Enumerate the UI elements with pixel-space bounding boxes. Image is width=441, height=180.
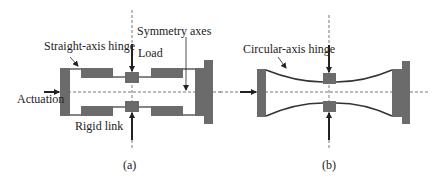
center-pad-top (125, 72, 139, 83)
panel-b-diagram (220, 15, 428, 150)
circular-axis-hinge-label: Circular-axis hinge (243, 43, 335, 55)
right-output-block (204, 60, 213, 124)
left-frame-block-b (257, 69, 266, 117)
panel-b-caption: (b) (322, 159, 336, 171)
right-output-block-b (402, 61, 410, 124)
circular-hinge-top-left (266, 70, 323, 82)
rigid-link-bottom-right (151, 106, 183, 116)
actuation-label: Actuation (17, 93, 64, 105)
center-pad-bottom-b (323, 101, 336, 112)
rigid-link-label: Rigid link (75, 120, 123, 132)
straight-axis-hinge-label: Straight-axis hinge (44, 40, 135, 52)
hinge-pointer (70, 57, 78, 66)
rigid-link-top-right (151, 68, 183, 78)
diagram-canvas (0, 0, 441, 180)
circular-hinge-pointer (278, 57, 286, 68)
rigid-link-bottom-left (81, 106, 113, 116)
load-label: Load (138, 47, 163, 59)
circular-hinge-top-right (336, 70, 392, 82)
symmetry-axes-label: Symmetry axes (137, 25, 211, 37)
center-pad-top-b (323, 73, 336, 84)
rigid-link-top-left (81, 68, 113, 78)
compliant-mechanism-figure: Straight-axis hinge Load Symmetry axes A… (0, 0, 441, 180)
panel-a-caption: (a) (123, 159, 136, 171)
circular-hinge-bottom-left (266, 103, 323, 116)
center-pad-bottom (125, 101, 139, 112)
circular-hinge-bottom-right (336, 103, 392, 116)
